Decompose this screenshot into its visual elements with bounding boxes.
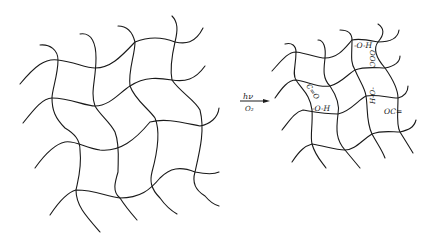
group-hydroxyl-3: H-O- [369, 87, 377, 105]
group-hydroxyl-2: -O-H [312, 104, 330, 113]
arrow-label-oxygen: O₂ [245, 105, 254, 113]
group-ester-1: OOC [368, 50, 376, 67]
polymer-network-before [20, 16, 219, 232]
reaction-arrow: hν O₂ [240, 92, 270, 113]
polymer-network-after: -O-H OOC C=O -O-H H-O- OC= [272, 24, 416, 168]
group-carbonyl-2: OC= [384, 107, 402, 116]
arrow-head-icon [263, 99, 270, 103]
group-hydroxyl-1: -O-H [354, 41, 372, 50]
arrow-label-light: hν [243, 92, 253, 101]
reaction-diagram: hν O₂ -O-H OOC C=O -O-H H-O- OC= [0, 0, 439, 244]
